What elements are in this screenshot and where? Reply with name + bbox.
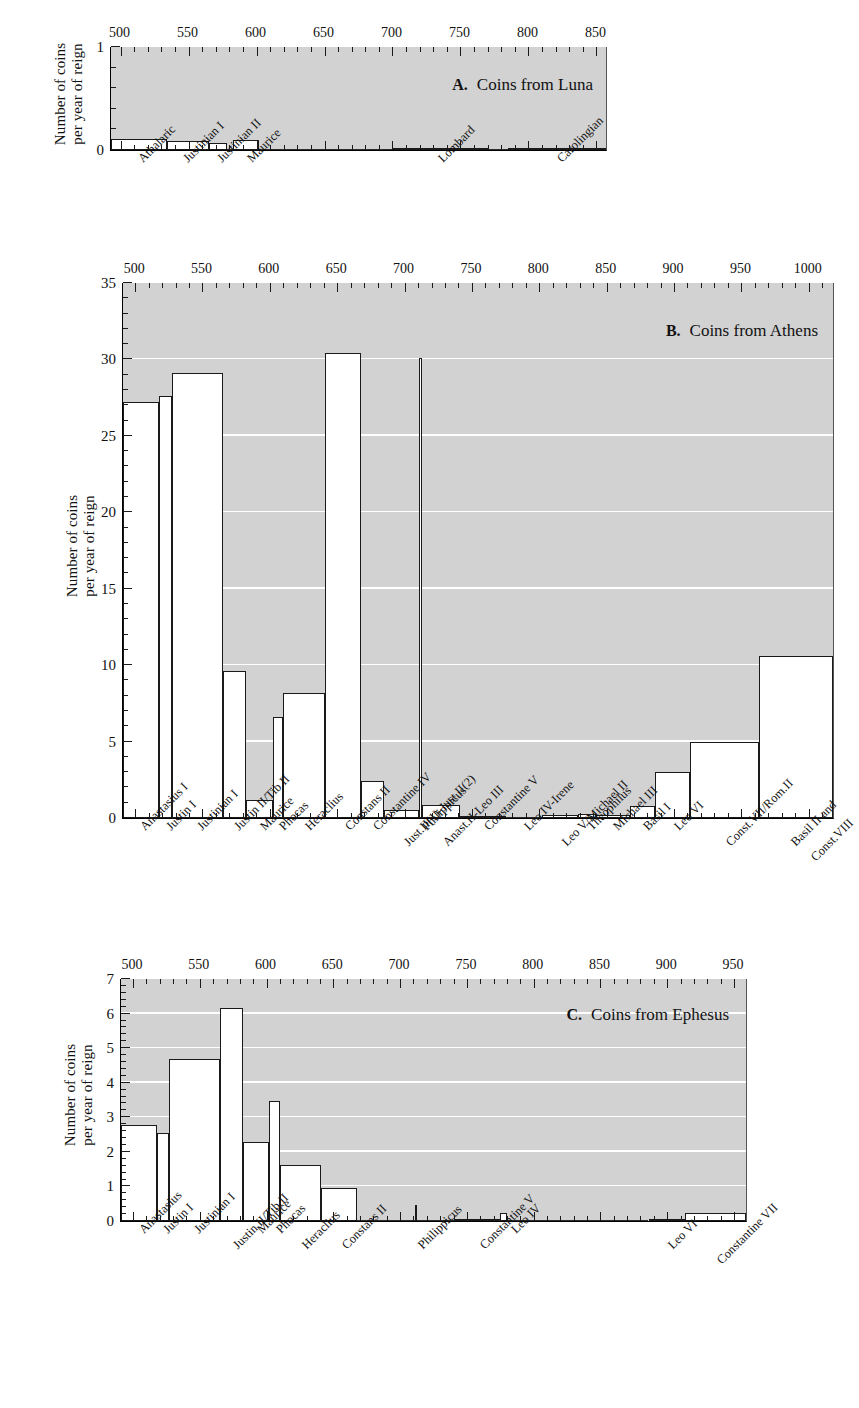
x-minor-tick <box>822 283 823 288</box>
x-minor-tick-bottom <box>542 145 543 150</box>
x-minor-tick <box>620 283 621 288</box>
x-minor-tick <box>782 283 783 288</box>
y-minor-tick <box>123 572 128 573</box>
x-minor-tick-bottom <box>240 1216 241 1221</box>
x-major-tick-bottom <box>467 1212 468 1221</box>
x-minor-tick-bottom <box>485 813 486 818</box>
x-minor-tick-bottom <box>297 813 298 818</box>
x-tick-label: 500 <box>109 25 130 41</box>
y-minor-tick <box>121 1130 126 1131</box>
x-minor-tick <box>134 47 135 52</box>
x-minor-tick-bottom <box>755 813 756 818</box>
x-minor-tick <box>494 979 495 984</box>
x-major-tick-bottom <box>600 1212 601 1221</box>
x-minor-tick-bottom <box>253 1216 254 1221</box>
bar <box>172 373 223 818</box>
x-minor-tick <box>351 283 352 288</box>
x-major-tick-bottom <box>325 141 326 150</box>
x-minor-tick-bottom <box>569 145 570 150</box>
panel-caption-c: C.Coins from Ephesus <box>567 1005 729 1025</box>
x-minor-tick-bottom <box>420 145 421 150</box>
x-minor-tick <box>488 47 489 52</box>
x-minor-tick <box>714 283 715 288</box>
y-tick-label: 15 <box>88 580 116 597</box>
x-minor-tick <box>507 979 508 984</box>
x-minor-tick <box>146 979 147 984</box>
y-minor-tick <box>123 695 128 696</box>
panel-letter-c: C. <box>567 1006 583 1023</box>
y-major-tick <box>123 282 132 283</box>
x-minor-tick-bottom <box>647 813 648 818</box>
x-tick-label: 650 <box>313 25 334 41</box>
y-tick-label: 7 <box>86 971 114 988</box>
y-major-tick <box>121 1047 130 1048</box>
x-major-tick <box>337 283 338 292</box>
x-minor-tick <box>413 979 414 984</box>
x-major-tick-bottom <box>400 1212 401 1221</box>
x-tick-label: 950 <box>722 957 743 973</box>
y-minor-tick <box>121 1137 126 1138</box>
panel-title-b: Coins from Athens <box>690 321 818 340</box>
x-major-tick <box>325 47 326 56</box>
y-axis-title-line2: per year of reign <box>81 461 98 631</box>
x-minor-tick <box>447 47 448 52</box>
x-minor-tick-bottom <box>280 1216 281 1221</box>
x-minor-tick-bottom <box>243 813 244 818</box>
x-minor-tick-bottom <box>480 1216 481 1221</box>
y-tick-label: 0 <box>88 810 116 827</box>
x-minor-tick-bottom <box>640 1216 641 1221</box>
x-minor-tick-bottom <box>488 145 489 150</box>
x-minor-tick <box>560 979 561 984</box>
y-minor-tick <box>121 1172 126 1173</box>
x-minor-tick-bottom <box>721 1216 722 1221</box>
x-minor-tick <box>283 283 284 288</box>
y-minor-tick <box>121 1192 126 1193</box>
x-minor-tick <box>378 283 379 288</box>
plot-area-a <box>110 47 607 151</box>
x-minor-tick <box>373 979 374 984</box>
x-minor-tick-bottom <box>822 813 823 818</box>
x-minor-tick <box>364 283 365 288</box>
y-minor-tick <box>121 1068 126 1069</box>
y-axis-title-line1: Number of coins <box>62 1044 78 1146</box>
x-minor-tick <box>587 979 588 984</box>
x-minor-tick <box>162 283 163 288</box>
y-minor-tick <box>123 634 128 635</box>
y-major-tick <box>121 978 130 979</box>
x-minor-tick-bottom <box>427 1216 428 1221</box>
y-minor-tick <box>123 313 128 314</box>
x-minor-tick <box>391 283 392 288</box>
x-minor-tick <box>474 47 475 52</box>
x-minor-tick <box>387 979 388 984</box>
x-minor-tick-bottom <box>216 145 217 150</box>
y-major-tick <box>111 149 120 150</box>
x-minor-tick <box>148 47 149 52</box>
x-major-tick <box>607 283 608 292</box>
x-tick-label: 550 <box>177 25 198 41</box>
y-tick-label: 5 <box>86 1040 114 1057</box>
x-minor-tick <box>347 979 348 984</box>
y-minor-tick <box>121 1206 126 1207</box>
x-tick-label: 550 <box>191 261 212 277</box>
x-minor-tick-bottom <box>189 813 190 818</box>
x-minor-tick-bottom <box>547 1216 548 1221</box>
x-minor-tick-bottom <box>714 813 715 818</box>
y-minor-tick <box>121 1061 126 1062</box>
y-major-tick <box>123 817 132 818</box>
y-tick-label: 30 <box>88 351 116 368</box>
y-minor-tick <box>121 1006 126 1007</box>
x-minor-tick <box>485 283 486 288</box>
y-minor-tick <box>121 1165 126 1166</box>
x-minor-tick-bottom <box>284 145 285 150</box>
x-major-tick-bottom <box>667 1212 668 1221</box>
x-minor-tick <box>311 47 312 52</box>
x-minor-tick <box>512 283 513 288</box>
y-major-tick <box>123 511 132 512</box>
x-minor-tick-bottom <box>387 1216 388 1221</box>
y-minor-tick <box>123 465 128 466</box>
x-minor-tick <box>661 283 662 288</box>
y-tick-label: 10 <box>88 657 116 674</box>
x-minor-tick-bottom <box>768 813 769 818</box>
x-tick-label: 800 <box>517 25 538 41</box>
x-major-tick-bottom <box>596 141 597 150</box>
